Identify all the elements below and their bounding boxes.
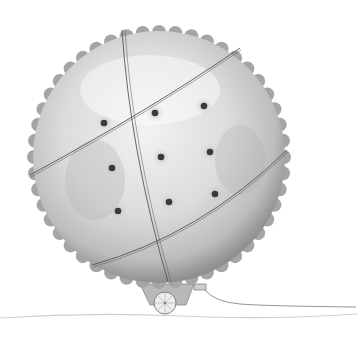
cracker-cart-illustration (0, 0, 358, 343)
pull-string (205, 290, 356, 307)
docking-hole (152, 110, 159, 117)
docking-hole (101, 120, 108, 127)
docking-hole (201, 103, 208, 110)
cart-wheel-icon (154, 292, 176, 314)
docking-hole (158, 154, 165, 161)
cart (140, 284, 206, 314)
docking-hole (115, 208, 122, 215)
docking-hole (166, 199, 173, 206)
ground-line (0, 314, 358, 318)
docking-hole (212, 191, 219, 198)
docking-hole (207, 149, 214, 156)
docking-hole (109, 165, 116, 172)
